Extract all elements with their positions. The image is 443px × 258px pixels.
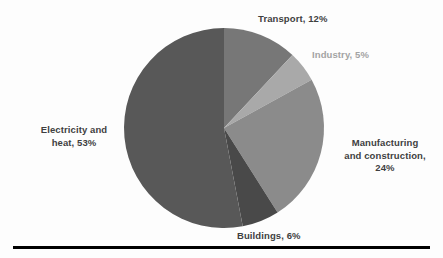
slice-label-manufacturing-line2: and construction, (331, 150, 439, 163)
slice-label-electricity-line2: heat, 53% (18, 137, 130, 150)
pie-slices-group (124, 28, 324, 228)
slice-label-transport-text: Transport, 12% (258, 13, 328, 24)
slice-label-electricity-and-heat: Electricity and heat, 53% (18, 124, 130, 149)
slice-label-industry-text: Industry, 5% (312, 49, 369, 60)
pie-chart-figure: Transport, 12% Industry, 5% Manufacturin… (0, 0, 443, 258)
slice-label-electricity-line1: Electricity and (18, 124, 130, 137)
slice-label-manufacturing-line1: Manufacturing (331, 137, 439, 150)
slice-label-buildings-text: Buildings, 6% (237, 230, 301, 241)
bottom-divider-rule (13, 246, 430, 249)
slice-label-transport: Transport, 12% (258, 13, 328, 26)
slice-label-manufacturing-line3: 24% (331, 162, 439, 175)
slice-label-industry: Industry, 5% (312, 49, 369, 62)
slice-label-manufacturing: Manufacturing and construction, 24% (331, 137, 439, 175)
slice-label-buildings: Buildings, 6% (237, 230, 301, 243)
